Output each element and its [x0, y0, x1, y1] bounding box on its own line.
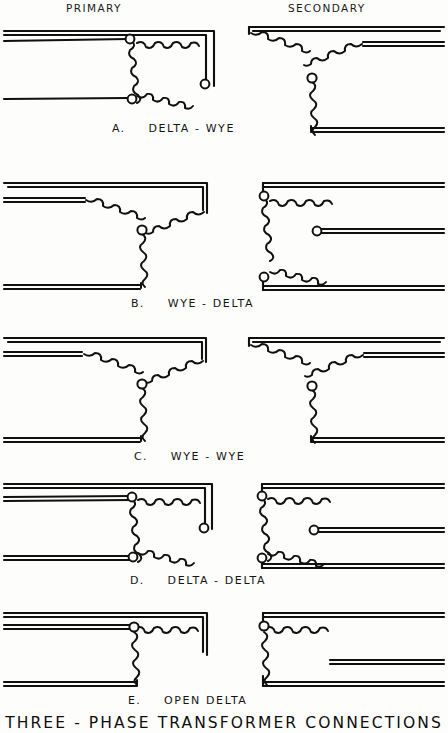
delta-nodes-primary-a	[126, 35, 210, 104]
open-delta-winding-primary-e	[132, 627, 198, 685]
wye-neutral-node-primary-b	[137, 225, 146, 234]
delta-winding-primary-a	[129, 41, 199, 109]
row-label-e: E. OPEN DELTA	[128, 694, 247, 707]
bus-lines-primary-e	[4, 613, 207, 686]
row-label-d: D. DELTA - DELTA	[130, 574, 266, 587]
row-b-primary-wye	[4, 183, 207, 289]
row-e-secondary-open-delta	[259, 613, 444, 686]
row-title-c: WYE - WYE	[171, 450, 245, 463]
bus-lines-primary-c	[4, 338, 206, 442]
row-e-primary-open-delta	[4, 613, 207, 686]
row-c-primary-wye	[4, 338, 206, 442]
open-delta-node-primary-e	[129, 622, 138, 631]
bus-lines-secondary-a	[249, 27, 444, 132]
wye-winding-secondary-a	[251, 32, 362, 135]
row-a-primary-delta	[4, 31, 214, 109]
bus-lines-secondary-b	[263, 183, 444, 290]
bus-lines-secondary-e	[263, 613, 444, 686]
row-label-b: B. WYE - DELTA	[131, 297, 254, 310]
wye-winding-primary-b	[86, 199, 204, 288]
row-index-a: A.	[112, 122, 125, 135]
row-index-c: C.	[134, 450, 148, 463]
row-label-c: C. WYE - WYE	[134, 450, 245, 463]
bus-lines-secondary-d	[262, 484, 444, 568]
row-index-b: B.	[131, 297, 144, 310]
open-delta-winding-secondary-e	[262, 627, 328, 685]
row-label-a: A. DELTA - WYE	[112, 122, 235, 135]
row-d-primary-delta	[4, 484, 212, 566]
row-title-b: WYE - DELTA	[168, 297, 255, 310]
row-title-a: DELTA - WYE	[148, 122, 235, 135]
figure-caption: THREE - PHASE TRANSFORMER CONNECTIONS	[0, 714, 448, 732]
bus-lines-primary-a	[4, 31, 214, 99]
bus-lines-primary-d	[4, 484, 212, 560]
transformer-connection-drawings	[0, 0, 448, 733]
open-delta-node-secondary-e	[259, 621, 268, 630]
row-a-secondary-wye	[249, 27, 444, 135]
row-index-d: D.	[130, 574, 144, 587]
delta-winding-secondary-b	[262, 199, 332, 285]
diagram-sheet: PRIMARY SECONDARY	[0, 0, 448, 733]
row-c-secondary-wye	[249, 338, 444, 443]
bus-lines-secondary-c	[249, 338, 444, 442]
wye-neutral-node-secondary-c	[307, 381, 316, 390]
wye-neutral-node-secondary-a	[307, 73, 316, 82]
wye-neutral-node-primary-c	[137, 379, 146, 388]
row-title-e: OPEN DELTA	[164, 694, 247, 707]
wye-winding-secondary-c	[251, 344, 363, 443]
wye-winding-primary-c	[84, 353, 203, 441]
delta-nodes-primary-d	[128, 493, 209, 562]
row-title-d: DELTA - DELTA	[168, 574, 267, 587]
row-b-secondary-delta	[260, 183, 444, 290]
bus-lines-primary-b	[4, 183, 207, 289]
row-index-e: E.	[128, 694, 141, 707]
delta-nodes-secondary-b	[260, 192, 322, 282]
delta-winding-primary-d	[130, 499, 200, 566]
row-d-secondary-delta	[258, 484, 444, 568]
